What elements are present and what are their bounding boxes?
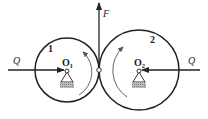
contact-point <box>97 68 102 73</box>
gear-contact-diagram: F Q Q 1 2 O1 O2 <box>0 0 208 119</box>
ground-hatch-2 <box>132 82 146 88</box>
gear-1-rotation-arrow <box>79 52 92 95</box>
gear-1-label: 1 <box>48 43 53 54</box>
force-q-left-label: Q <box>13 55 21 66</box>
force-f-label: F <box>102 8 110 19</box>
pivot-2-label: O2 <box>134 57 145 69</box>
pivot-support-1 <box>60 69 74 88</box>
pivot-1-label: O1 <box>62 57 73 69</box>
gear-2-rotation-arrow <box>113 47 127 97</box>
ground-hatch-1 <box>60 82 74 88</box>
gear-2-label: 2 <box>150 34 155 45</box>
force-q-right-label: Q <box>188 55 196 66</box>
pivot-support-2 <box>132 69 146 88</box>
